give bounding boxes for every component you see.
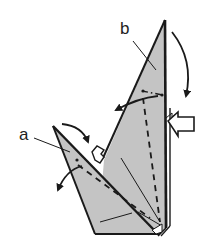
- fold-arrow-right: [172, 32, 188, 96]
- label-b: b: [120, 20, 129, 37]
- label-a: a: [19, 126, 28, 143]
- pleat-step-icon: [92, 146, 104, 163]
- reference-dot: [75, 158, 78, 161]
- origami-diagram: [0, 0, 218, 244]
